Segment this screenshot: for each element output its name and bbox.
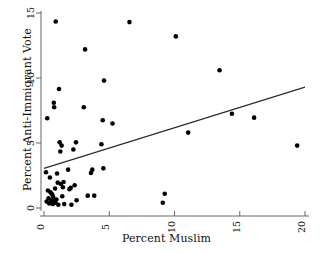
regression-line-segment — [44, 87, 305, 168]
data-point — [59, 143, 64, 148]
data-point — [45, 116, 50, 121]
data-point — [62, 202, 67, 207]
data-point — [68, 186, 73, 191]
data-point — [55, 171, 60, 176]
data-point — [92, 193, 97, 198]
data-point — [82, 105, 87, 110]
data-point — [85, 193, 90, 198]
x-tick-group: 05101520 — [35, 211, 307, 233]
data-point — [74, 140, 79, 145]
data-point — [174, 34, 179, 39]
y-axis-label: Percent Anti-Immigrant Vote — [21, 20, 34, 200]
data-point — [51, 100, 56, 105]
x-tick-label: 0 — [35, 224, 46, 230]
data-point — [58, 149, 63, 154]
data-point — [57, 87, 62, 92]
plot-canvas: 05101520 051015 — [0, 0, 333, 253]
data-point — [127, 20, 132, 25]
data-point — [69, 202, 74, 207]
data-point — [74, 198, 79, 203]
scatter-plot-figure: 05101520 051015 Percent Muslim Percent A… — [0, 0, 333, 253]
data-point — [100, 118, 105, 123]
data-point — [83, 47, 88, 52]
data-point — [162, 191, 167, 196]
data-point — [230, 111, 235, 116]
data-point — [186, 130, 191, 135]
data-point — [102, 78, 107, 83]
data-point — [56, 202, 61, 207]
data-point — [53, 186, 58, 191]
data-point — [71, 147, 76, 152]
data-point — [160, 201, 165, 206]
data-point — [295, 143, 300, 148]
data-point — [101, 166, 106, 171]
x-tick-label: 5 — [100, 224, 111, 230]
data-point — [72, 183, 77, 188]
data-point — [52, 105, 57, 110]
data-point — [90, 167, 95, 172]
data-point — [99, 142, 104, 147]
data-point — [110, 121, 115, 126]
x-axis: 05101520 — [35, 211, 309, 233]
data-point — [61, 180, 66, 185]
data-point — [66, 167, 71, 172]
data-point — [217, 68, 222, 73]
data-point — [252, 115, 257, 120]
data-point — [61, 185, 66, 190]
data-point — [48, 175, 53, 180]
data-point — [54, 197, 59, 202]
y-tick-label: 0 — [25, 205, 36, 211]
data-point — [53, 19, 58, 24]
y-tick-label: 15 — [25, 7, 36, 19]
data-point-group — [44, 19, 300, 207]
data-point — [44, 170, 49, 175]
data-point — [60, 194, 65, 199]
x-axis-label: Percent Muslim — [0, 232, 333, 245]
regression-line — [44, 87, 305, 168]
